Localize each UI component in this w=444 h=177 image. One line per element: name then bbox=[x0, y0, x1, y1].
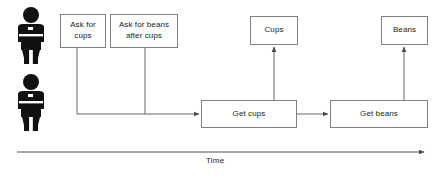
node-label: Cups bbox=[264, 25, 283, 36]
node-label: Ask for beans after cups bbox=[119, 20, 169, 42]
node-beans[interactable]: Beans bbox=[381, 16, 428, 45]
person-icon-glyph bbox=[12, 6, 50, 66]
person-icon bbox=[12, 6, 50, 70]
diagram-canvas: Ask for cups Ask for beans after cups Cu… bbox=[0, 0, 444, 177]
node-label: Get beans bbox=[360, 109, 398, 120]
person-icon bbox=[12, 73, 50, 137]
node-label: Ask for cups bbox=[70, 20, 96, 42]
node-label: Get cups bbox=[233, 109, 266, 120]
person-icon-glyph bbox=[12, 73, 50, 133]
time-axis-label: Time bbox=[206, 156, 224, 165]
node-cups[interactable]: Cups bbox=[250, 16, 298, 45]
node-ask-for-cups[interactable]: Ask for cups bbox=[60, 14, 106, 48]
node-get-beans[interactable]: Get beans bbox=[330, 100, 428, 128]
node-label: Beans bbox=[393, 25, 416, 36]
node-get-cups[interactable]: Get cups bbox=[201, 100, 297, 128]
node-ask-for-beans-after-cups[interactable]: Ask for beans after cups bbox=[110, 14, 178, 48]
